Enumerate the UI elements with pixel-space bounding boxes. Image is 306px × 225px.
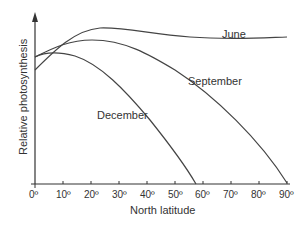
y-axis-arrow-icon (32, 12, 38, 22)
photosynthesis-latitude-chart: 0º 10º 20º 30º 40º 50º 60º 70º 80º 90º N… (0, 0, 306, 225)
x-tick-label: 20º (84, 189, 99, 200)
x-tick-label: 80º (251, 189, 266, 200)
x-tick-label: 40º (140, 189, 155, 200)
x-tick-labels: 0º 10º 20º 30º 40º 50º 60º 70º 80º 90º (29, 189, 294, 200)
x-axis (31, 181, 290, 188)
x-tick-label: 60º (195, 189, 210, 200)
x-tick-label: 90º (279, 189, 294, 200)
june-label: June (222, 28, 246, 40)
december-label: December (97, 109, 148, 121)
x-axis-title: North latitude (130, 204, 195, 216)
x-tick-label: 50º (168, 189, 183, 200)
september-curve (35, 40, 287, 183)
x-tick-label: 0º (29, 189, 39, 200)
september-label: September (188, 75, 242, 87)
june-curve (35, 28, 287, 70)
curves (35, 28, 287, 184)
x-tick-label: 30º (112, 189, 127, 200)
x-tick-label: 70º (223, 189, 238, 200)
y-axis-title: Relative photosynthesis (17, 38, 29, 155)
x-tick-label: 10º (56, 189, 71, 200)
y-axis (32, 12, 38, 184)
